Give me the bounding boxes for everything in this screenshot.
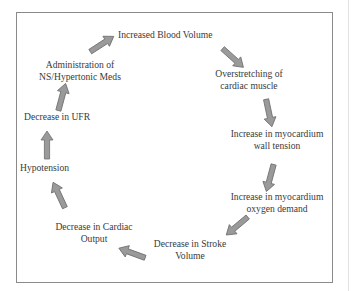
node-line: Increase in myocardium xyxy=(217,128,337,140)
node-cardiac-output: Decrease in Cardiac Output xyxy=(39,221,149,245)
node-line: wall tension xyxy=(217,140,337,152)
node-hypotension: Hypotension xyxy=(20,162,69,174)
node-line: Increased Blood Volume xyxy=(118,29,213,41)
node-line: cardiac muscle xyxy=(194,80,304,92)
node-stroke-volume: Decrease in Stroke Volume xyxy=(135,238,245,262)
arrow-icon xyxy=(87,31,117,56)
node-line: NS/Hypertonic Meds xyxy=(25,71,135,83)
node-line: Decrease in Stroke xyxy=(135,238,245,250)
node-line: Administration of xyxy=(25,59,135,71)
node-increased-blood-volume: Increased Blood Volume xyxy=(118,29,213,41)
node-wall-tension: Increase in myocardium wall tension xyxy=(217,128,337,152)
node-line: Decrease in UFR xyxy=(24,111,90,123)
arrow-icon xyxy=(41,131,53,159)
arrow-icon xyxy=(260,98,278,128)
node-line: Volume xyxy=(135,250,245,262)
node-line: oxygen demand xyxy=(217,203,337,215)
arrow-icon xyxy=(261,163,280,193)
node-decrease-ufr: Decrease in UFR xyxy=(24,111,90,123)
arrow-icon xyxy=(53,82,72,112)
node-administration: Administration of NS/Hypertonic Meds xyxy=(25,59,135,83)
node-line: Increase in myocardium xyxy=(217,191,337,203)
node-line: Decrease in Cardiac xyxy=(39,221,149,233)
node-oxygen-demand: Increase in myocardium oxygen demand xyxy=(217,191,337,215)
arrow-icon xyxy=(222,212,251,239)
arrow-icon xyxy=(48,180,71,210)
node-line: Output xyxy=(39,233,149,245)
node-line: Hypotension xyxy=(20,162,69,174)
node-overstretching: Overstretching of cardiac muscle xyxy=(194,68,304,92)
node-line: Overstretching of xyxy=(194,68,304,80)
